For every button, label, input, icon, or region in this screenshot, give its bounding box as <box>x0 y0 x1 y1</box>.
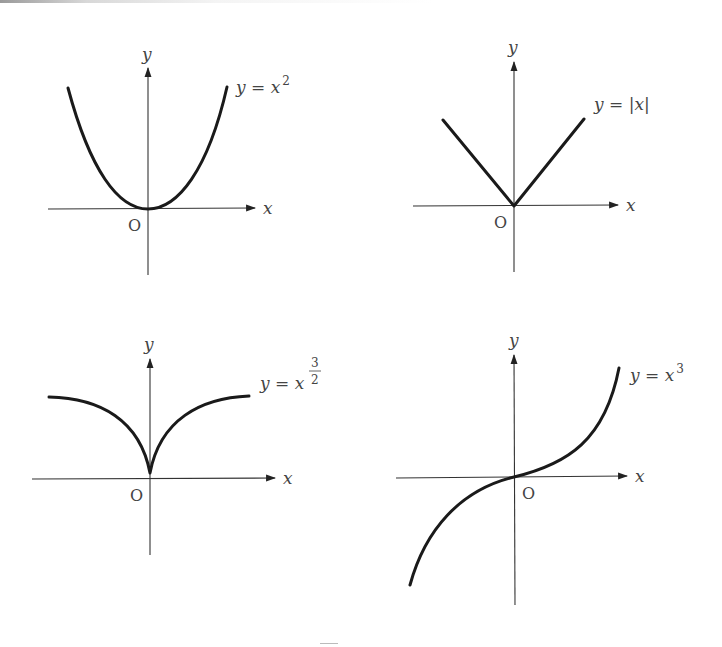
equation-label: y = |x| <box>593 94 650 114</box>
panel-square: y x O y = x2 <box>48 44 290 275</box>
y-axis-label: y <box>508 330 519 350</box>
panel-cube: y x O y = x3 <box>396 330 684 605</box>
x-axis-label: x <box>263 198 273 218</box>
y-axis-label: y <box>143 334 154 354</box>
origin-label: O <box>130 486 143 505</box>
x-axis <box>32 478 275 479</box>
y-axis-label: y <box>141 44 152 64</box>
y-axis-label: y <box>507 37 518 57</box>
equation-label: y = x3 <box>629 362 684 385</box>
x-axis-label: x <box>635 466 645 486</box>
svg-text:y = x: y = x <box>259 373 305 393</box>
function-graphs-figure: y x O y = x2 y x O y = |x| y x O y = x 3… <box>0 0 722 647</box>
curve-x-three-halves <box>49 396 249 473</box>
equation-label: y = x2 <box>235 74 290 97</box>
x-axis-label: x <box>626 195 636 215</box>
bottom-edge-mark <box>320 643 338 644</box>
origin-label: O <box>128 216 141 235</box>
y-axis <box>514 355 515 605</box>
panel-three-halves: y x O y = x 3 2 <box>32 334 321 555</box>
origin-label: O <box>522 484 535 503</box>
origin-label: O <box>494 213 507 232</box>
equation-label: y = x 3 2 <box>259 356 321 393</box>
exponent-denominator: 2 <box>311 373 319 387</box>
x-axis-label: x <box>283 468 293 488</box>
exponent-numerator: 3 <box>311 356 319 370</box>
panel-abs: y x O y = |x| <box>413 37 650 272</box>
